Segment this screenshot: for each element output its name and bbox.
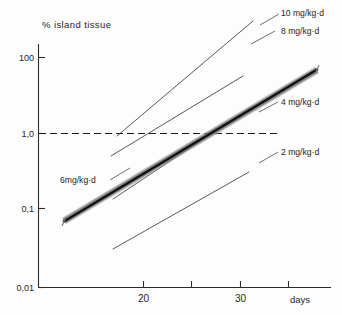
axes-group (39, 44, 332, 288)
x-tick-label-20: 20 (138, 293, 150, 304)
band-core-6mg (63, 69, 318, 222)
y-tick-label-1: 1,0 (21, 129, 34, 139)
series-label-10mg: 10 mg/kg·d (281, 8, 324, 18)
x-axis-title: days (290, 294, 310, 305)
chart-canvas: % island tissue days 100 1,0 0,1 0,01 20… (0, 0, 342, 315)
y-tick-label-0-01: 0,01 (16, 283, 34, 293)
series-label-2mg: 2 mg/kg·d (281, 147, 319, 157)
series-line-8mg (111, 76, 243, 156)
series-label-4mg: 4 mg/kg·d (281, 97, 319, 107)
chart-figure: % island tissue days 100 1,0 0,1 0,01 20… (0, 0, 342, 315)
series-leader-8mg (251, 31, 275, 44)
x-tick-label-30: 30 (235, 293, 247, 304)
series-leader-6mg (110, 168, 130, 180)
series-label-8mg: 8 mg/kg·d (281, 26, 319, 36)
series-band-6mg (62, 65, 319, 226)
series-label-6mg: 6mg/kg·d (60, 175, 96, 185)
x-tick-marks (144, 281, 289, 288)
y-axis-title: % island tissue (42, 19, 111, 30)
series-leader-2mg (259, 152, 278, 163)
y-tick-label-100: 100 (19, 53, 34, 63)
y-tick-label-0-1: 0,1 (21, 204, 34, 214)
series-leader-10mg (260, 14, 279, 25)
y-tick-marks (39, 58, 46, 288)
